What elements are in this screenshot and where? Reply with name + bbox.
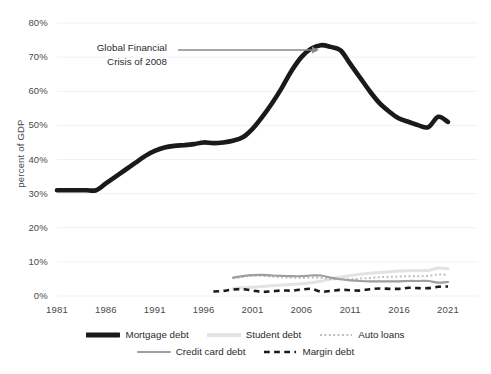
legend-item-margin-debt[interactable]: Margin debt <box>263 346 354 357</box>
x-tick-label: 1991 <box>135 304 175 315</box>
x-tick-label: 2021 <box>428 304 468 315</box>
legend-item-mortgage-debt[interactable]: Mortgage debt <box>86 329 188 340</box>
y-tick-label: 60% <box>12 85 48 96</box>
legend-label: Credit card debt <box>176 346 246 357</box>
chart-container: percent of GDP 0%10%20%30%40%50%60%70%80… <box>0 0 491 374</box>
annotation-line-2: Crisis of 2008 <box>17 56 167 67</box>
legend-label: Auto loans <box>358 329 404 340</box>
legend-row: Mortgage debtStudent debtAuto loans <box>0 326 491 343</box>
legend-label: Margin debt <box>302 346 354 357</box>
x-tick-label: 2001 <box>233 304 273 315</box>
x-tick-label: 1996 <box>184 304 224 315</box>
legend-item-credit-card-debt[interactable]: Credit card debt <box>137 346 246 357</box>
legend-swatch-solid <box>207 330 241 340</box>
y-tick-label: 30% <box>12 188 48 199</box>
legend-item-student-debt[interactable]: Student debt <box>207 329 302 340</box>
legend-swatch-solid <box>137 347 171 357</box>
legend-swatch-dashed <box>263 347 297 357</box>
y-tick-label: 10% <box>12 256 48 267</box>
legend-item-auto-loans[interactable]: Auto loans <box>319 329 404 340</box>
y-tick-label: 80% <box>12 17 48 28</box>
legend-label: Student debt <box>246 329 302 340</box>
annotation-line-1: Global Financial <box>17 42 167 53</box>
x-tick-label: 1986 <box>86 304 126 315</box>
y-tick-label: 50% <box>12 119 48 130</box>
x-tick-label: 1981 <box>37 304 77 315</box>
legend-row: Credit card debtMargin debt <box>0 343 491 360</box>
legend-label: Mortgage debt <box>125 329 188 340</box>
x-tick-label: 2011 <box>330 304 370 315</box>
chart-legend: Mortgage debtStudent debtAuto loansCredi… <box>0 326 491 360</box>
x-tick-label: 2016 <box>379 304 419 315</box>
y-tick-label: 20% <box>12 222 48 233</box>
legend-swatch-dotted <box>319 330 353 340</box>
legend-swatch-solid <box>86 330 120 340</box>
y-tick-label: 0% <box>12 290 48 301</box>
y-tick-label: 40% <box>12 154 48 165</box>
x-tick-label: 2006 <box>281 304 321 315</box>
